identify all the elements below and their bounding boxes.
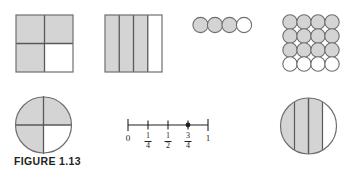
row-circle-1 — [207, 17, 222, 32]
quadrant-cell-bottom-left — [16, 44, 45, 73]
circle-strip-cell-0 — [281, 98, 295, 154]
circle-quadrant-model — [16, 96, 72, 154]
figure-caption: FIGURE 1.13 — [14, 155, 81, 167]
fraction-denominator: 4 — [185, 142, 192, 150]
quadrant-cell-bottom-right — [45, 44, 74, 73]
grid-circle-r3c0 — [283, 57, 297, 71]
fraction-numerator: 1 — [145, 132, 152, 140]
fraction-denominator: 2 — [165, 142, 172, 150]
circle-grid-set-model — [283, 15, 339, 71]
number-line-label-0: 0 — [126, 133, 131, 143]
grid-circle-r1c2 — [311, 29, 325, 43]
grid-circle-r0c3 — [325, 15, 339, 29]
figure-graphics — [0, 0, 353, 180]
circle-strip-cell-2 — [309, 98, 323, 154]
grid-circle-r1c1 — [297, 29, 311, 43]
grid-circle-r3c3 — [325, 57, 339, 71]
grid-circle-r2c1 — [297, 43, 311, 57]
strip-cell-2 — [134, 15, 148, 72]
number-line-label-3-4: 3 4 — [185, 132, 192, 150]
grid-circle-r2c0 — [283, 43, 297, 57]
row-circle-3 — [236, 17, 251, 32]
circle-row-set-model — [193, 17, 252, 32]
quadrant-cell-top-left — [16, 15, 45, 44]
grid-circle-r0c2 — [311, 15, 325, 29]
strip-cell-0 — [105, 15, 119, 72]
number-line-label-1-2: 1 2 — [165, 132, 172, 150]
circle-strip-cell-3 — [323, 98, 337, 154]
grid-circle-r1c3 — [325, 29, 339, 43]
square-vertical-strips-model — [105, 15, 162, 72]
number-line-label-1-4: 1 4 — [145, 132, 152, 150]
number-line-label-1: 1 — [206, 133, 211, 143]
quadrant-cell-top-right — [45, 15, 74, 44]
strip-cell-1 — [119, 15, 133, 72]
number-line-model — [128, 119, 208, 131]
fraction-denominator: 4 — [145, 142, 152, 150]
figure-1-13: 0 1 4 1 2 3 4 1 FIGURE 1.13 — [0, 0, 353, 180]
number-line-point-marker — [186, 123, 191, 128]
row-circle-2 — [222, 17, 237, 32]
grid-circle-r3c2 — [311, 57, 325, 71]
circle-vertical-strips-model — [281, 98, 337, 154]
grid-circle-r3c1 — [297, 57, 311, 71]
circle-strip-cell-1 — [295, 98, 309, 154]
grid-circle-r0c0 — [283, 15, 297, 29]
fraction-numerator: 1 — [165, 132, 172, 140]
strip-cell-3 — [148, 15, 162, 72]
grid-circle-r2c3 — [325, 43, 339, 57]
square-quadrant-model — [16, 15, 73, 72]
grid-circle-r0c1 — [297, 15, 311, 29]
grid-circle-r2c2 — [311, 43, 325, 57]
grid-circle-r1c0 — [283, 29, 297, 43]
row-circle-0 — [193, 17, 208, 32]
fraction-numerator: 3 — [185, 132, 192, 140]
